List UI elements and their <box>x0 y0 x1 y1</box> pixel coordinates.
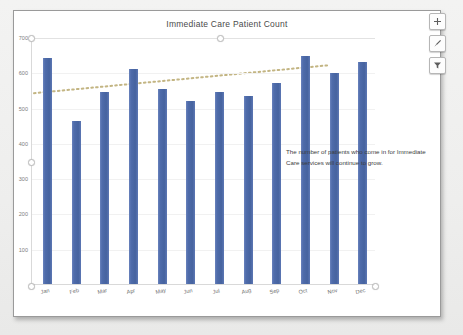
y-axis-tick-label: 700 <box>19 35 28 41</box>
selection-handle-plot-bottom-left[interactable] <box>28 283 35 290</box>
chart-elements-button[interactable] <box>429 13 446 30</box>
selection-handle-plot-left[interactable] <box>28 159 35 166</box>
selection-handle-plot-bottom-right[interactable] <box>372 283 379 290</box>
bar-oct[interactable] <box>301 56 310 284</box>
x-axis-tick-label: May <box>155 287 166 295</box>
bar-apr[interactable] <box>129 69 138 284</box>
bar-jan[interactable] <box>43 58 52 284</box>
x-axis-tick-label: Aug <box>241 287 252 295</box>
bar-jun[interactable] <box>186 101 195 284</box>
bar-sep[interactable] <box>272 83 281 284</box>
bar-nov[interactable] <box>330 73 339 284</box>
x-axis-tick-label: Sep <box>269 287 280 295</box>
bar-may[interactable] <box>158 89 167 284</box>
y-axis-tick-label: 400 <box>19 141 28 147</box>
x-axis-tick-label: Oct <box>298 287 308 295</box>
gridline <box>32 144 375 145</box>
x-axis-tick-label: Mar <box>97 287 108 295</box>
chart-filter-icon[interactable] <box>429 57 446 74</box>
x-axis-tick-label: Apr <box>126 287 136 295</box>
bar-feb[interactable] <box>72 121 81 284</box>
y-axis-tick-label: 600 <box>19 70 28 76</box>
y-axis-tick-label: 300 <box>19 176 28 182</box>
x-axis-tick-label: Feb <box>69 287 80 295</box>
annotation-textbox[interactable]: The number of patients who come in for I… <box>286 147 431 169</box>
gridline <box>32 214 375 215</box>
chart-title[interactable]: Immediate Care Patient Count <box>14 19 440 29</box>
y-axis-tick-label: 100 <box>19 247 28 253</box>
x-axis-tick-label: Jun <box>183 287 193 295</box>
bar-dec[interactable] <box>358 62 367 284</box>
gridline <box>32 73 375 74</box>
x-axis-tick-label: Jan <box>40 287 50 295</box>
x-axis-tick-label: Nov <box>327 287 338 295</box>
chart-styles-brush-icon[interactable] <box>429 35 446 52</box>
x-axis-tick-label: Jul <box>212 288 220 295</box>
bar-mar[interactable] <box>100 92 109 284</box>
gridline <box>32 179 375 180</box>
gridline <box>32 38 375 39</box>
chart-object[interactable]: Immediate Care Patient Count 10020030040… <box>13 10 441 317</box>
worksheet-canvas: Immediate Care Patient Count 10020030040… <box>0 0 463 335</box>
selection-handle-plot-top[interactable] <box>217 35 224 42</box>
gridline <box>32 250 375 251</box>
x-axis-tick-label: Dec <box>355 287 366 295</box>
y-axis-tick-label: 200 <box>19 211 28 217</box>
bar-aug[interactable] <box>244 96 253 284</box>
selection-handle-plot-top-left[interactable] <box>28 35 35 42</box>
y-axis-tick-label: 500 <box>19 106 28 112</box>
bar-jul[interactable] <box>215 92 224 284</box>
chart-side-buttons[interactable] <box>429 13 444 79</box>
gridline <box>32 109 375 110</box>
